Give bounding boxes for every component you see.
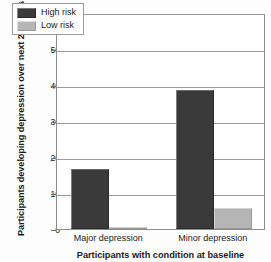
legend-label-high-risk: High risk [41, 8, 76, 17]
gridline [57, 51, 264, 52]
legend-item-low-risk: Low risk [17, 20, 76, 31]
bar-low-risk [109, 227, 147, 229]
bar-high-risk [71, 169, 109, 229]
y-axis-title-container: Participants developing depression over … [0, 0, 22, 240]
legend: High risk Low risk [12, 3, 84, 35]
plot-area [56, 14, 265, 230]
gridline [57, 123, 264, 124]
gridline [57, 87, 264, 88]
legend-item-high-risk: High risk [17, 7, 76, 18]
bar-high-risk [176, 90, 214, 229]
y-tick-mark [51, 230, 56, 231]
bar-low-risk [214, 208, 252, 229]
gridline [57, 159, 264, 160]
legend-swatch-low-risk [17, 21, 36, 31]
legend-label-low-risk: Low risk [41, 21, 74, 30]
x-tick-label: Major depression [48, 234, 168, 243]
x-tick-label: Minor depression [153, 234, 271, 243]
x-axis-title: Participants with condition at baseline [56, 251, 265, 260]
bar-chart-figure: Participants developing depression over … [0, 0, 271, 262]
legend-swatch-high-risk [17, 8, 36, 18]
y-axis-title: Participants developing depression over … [17, 4, 26, 236]
